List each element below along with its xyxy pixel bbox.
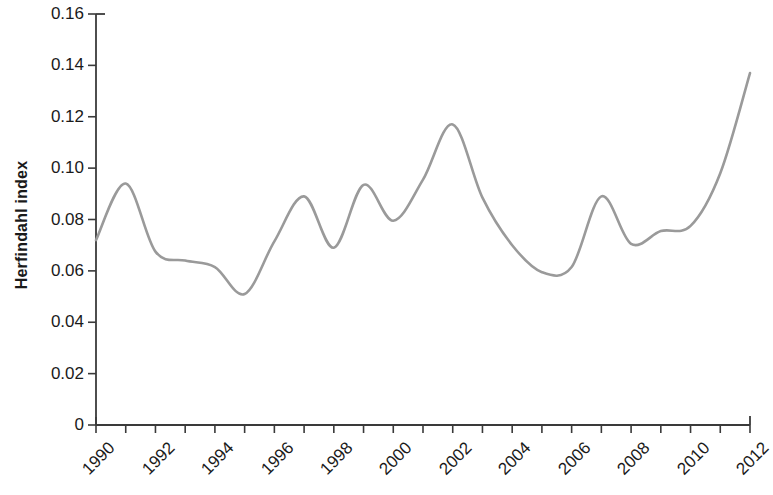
y-tick-label: 0 [75, 416, 84, 433]
chart-axes [88, 14, 750, 433]
y-tick-label: 0.16 [51, 5, 84, 22]
y-tick-label: 0.12 [51, 108, 84, 125]
y-tick-label: 0.10 [51, 159, 84, 176]
y-tick-label: 0.06 [51, 262, 84, 279]
y-tick-label: 0.14 [51, 56, 84, 73]
herfindahl-index-line [96, 73, 750, 294]
y-tick-label: 0.08 [51, 211, 84, 228]
y-axis-title: Herfindahl index [13, 125, 31, 325]
y-tick-label: 0.02 [51, 365, 84, 382]
y-tick-label: 0.04 [51, 313, 84, 330]
